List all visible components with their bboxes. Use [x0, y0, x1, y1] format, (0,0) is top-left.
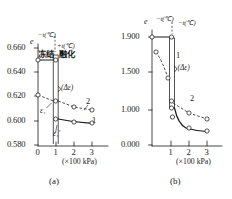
epsilon1-prime-label-a: ε₁′ — [53, 130, 60, 137]
panel-caption-b: (b) — [170, 177, 181, 186]
y-tick-label-b-0: 1.900 — [121, 32, 139, 41]
x-tick-label-a-2: 2 — [72, 148, 76, 157]
panel-b-plot — [116, 0, 232, 199]
y-axis-name-a: e — [30, 38, 34, 46]
curve2-seg1-b — [156, 52, 169, 80]
y-tick-label-a-3: 0.600 — [7, 116, 25, 125]
temp-freeze-label-b: −t(℃) — [156, 16, 174, 23]
x-axis-unit-label-a: (×100 kPa) — [62, 158, 97, 166]
data-markers-b — [150, 35, 209, 133]
x-tick-label-a-3: 3 — [90, 148, 94, 157]
marker-c2-p1-b — [166, 76, 170, 80]
marker-c1-p3-b — [170, 115, 174, 119]
marker-c2-p0-a — [36, 93, 40, 97]
curve1-label-a: 1 — [92, 117, 96, 125]
marker-c1-p5-b — [205, 129, 209, 133]
marker-c1-p4-b — [187, 126, 191, 130]
x-tick-label-b-2: 3 — [205, 148, 209, 157]
marker-c2-p4-b — [205, 117, 209, 121]
marker-c1-p3-a — [54, 117, 58, 121]
marker-c1-p2-a — [54, 99, 58, 103]
chart-panel-b: e 1.900 1.500 1.000 0.000 1 2 3 (×100 kP… — [116, 0, 232, 199]
marker-c1-p1-b — [169, 35, 173, 39]
delta-epsilon-label-a: (Δε) — [61, 84, 73, 91]
y-tick-label-b-3: 0.000 — [121, 140, 139, 149]
x-tick-label-a-1: 1 — [54, 148, 58, 157]
marker-c1-p2-b — [169, 106, 173, 110]
epsilon1-label-a: ε₁ — [40, 107, 45, 114]
temp-thaw-label-b: −t(℃) — [178, 20, 196, 27]
curve1-label-b: 1 — [176, 52, 180, 60]
marker-c2-p1-a — [72, 105, 76, 109]
y-tick-label-a-2: 0.620 — [7, 91, 25, 100]
chart-panel-a: e 0.660 0.640 0.620 0.600 0.580 0 1 2 3 … — [0, 0, 116, 199]
marker-c2-p2-b — [169, 99, 173, 103]
curve2-label-b: 2 — [190, 95, 194, 103]
marker-c1-p4-a — [72, 120, 76, 124]
marker-c2-p3-b — [187, 111, 191, 115]
freeze-text-a: 冻结 — [38, 50, 54, 58]
marker-c2-p2-a — [90, 108, 94, 112]
y-axis-name-b: e — [144, 18, 148, 26]
panel-caption-a: (a) — [49, 177, 59, 186]
y-tick-label-a-4: 0.580 — [7, 140, 25, 149]
thaw-text-a: 融化 — [59, 50, 75, 58]
y-tick-label-a-0: 0.660 — [7, 43, 25, 52]
x-tick-label-a-0: 0 — [36, 148, 40, 157]
x-tick-label-b-1: 2 — [187, 148, 191, 157]
delta-epsilon-label-b: (Δε) — [178, 64, 190, 71]
y-tick-label-b-2: 1.000 — [121, 105, 139, 114]
temp-freeze-label-a: −t(℃) — [38, 32, 56, 39]
eps1-leader-a — [47, 103, 52, 108]
y-tick-label-a-1: 0.640 — [7, 67, 25, 76]
x-tick-label-b-0: 1 — [169, 148, 173, 157]
marker-c1-p0-b — [150, 35, 154, 39]
curve2-label-a: 2 — [86, 98, 90, 106]
figure-container: e 0.660 0.640 0.620 0.600 0.580 0 1 2 3 … — [0, 0, 232, 199]
marker-c2-p0-b — [154, 50, 158, 54]
marker-c1-p1-a — [54, 58, 58, 62]
y-tick-label-b-1: 1.500 — [121, 67, 139, 76]
x-axis-unit-label-b: (×100 kPa) — [176, 158, 211, 166]
